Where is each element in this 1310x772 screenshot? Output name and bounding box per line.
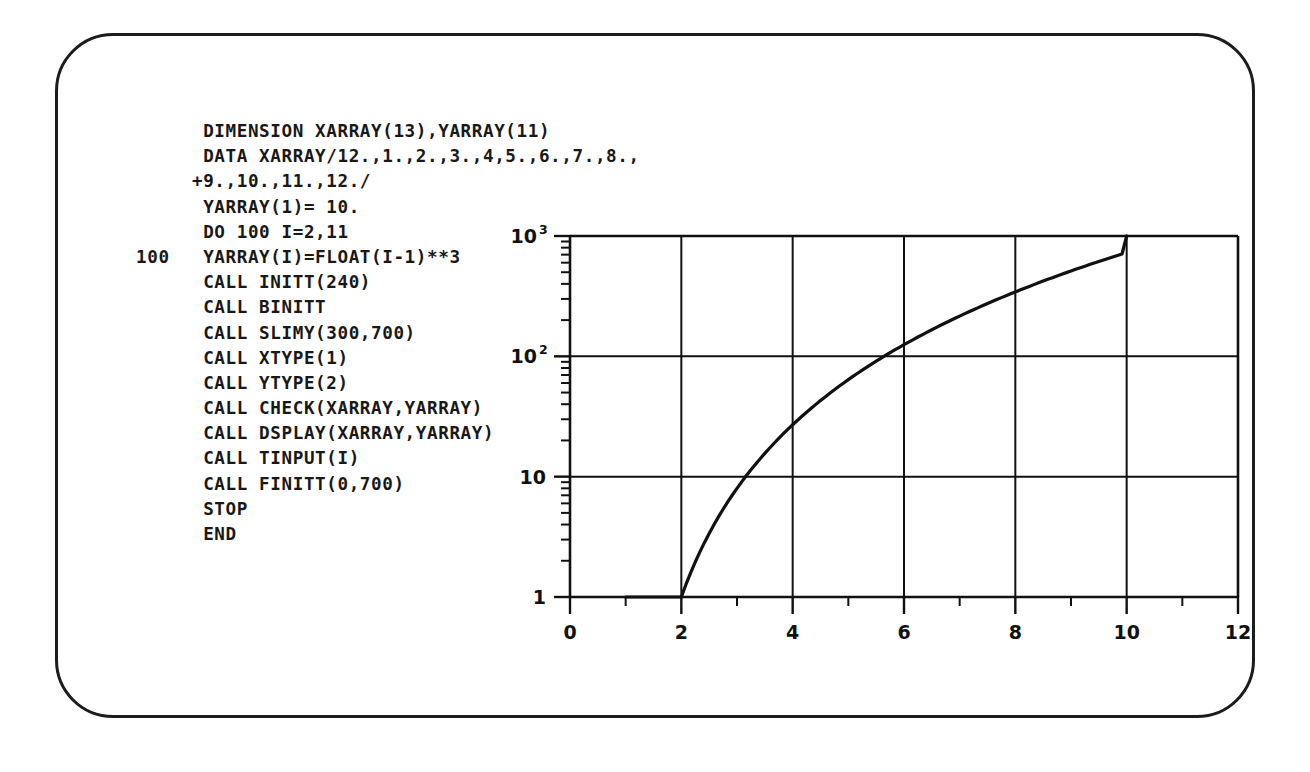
x-tick-label: 10 [1113, 621, 1139, 643]
crt-terminal-screen: DIMENSION XARRAY(13),YARRAY(11) DATA XAR… [55, 33, 1255, 718]
y-tick-label: 10 [511, 225, 537, 247]
x-tick-label: 6 [897, 621, 910, 643]
code-line: DATA XARRAY/12.,1.,2.,3.,4,5.,6.,7.,8., [136, 144, 556, 169]
y-tick-label: 10 [520, 466, 546, 488]
y-tick-label: 10 [511, 345, 537, 367]
x-tick-label: 12 [1225, 621, 1251, 643]
log-linear-plot: 110102103024681012 [488, 186, 1278, 656]
code-line: DIMENSION XARRAY(13),YARRAY(11) [136, 119, 556, 144]
data-series-line [626, 236, 1127, 597]
y-tick-label: 1 [533, 586, 546, 608]
x-tick-label: 4 [786, 621, 799, 643]
y-tick-label-exponent: 2 [539, 342, 548, 357]
x-tick-label: 0 [563, 621, 576, 643]
x-tick-label: 2 [675, 621, 688, 643]
x-tick-label: 8 [1009, 621, 1022, 643]
plot-area: 110102103024681012 [488, 186, 1278, 656]
y-tick-label-exponent: 3 [539, 222, 548, 237]
